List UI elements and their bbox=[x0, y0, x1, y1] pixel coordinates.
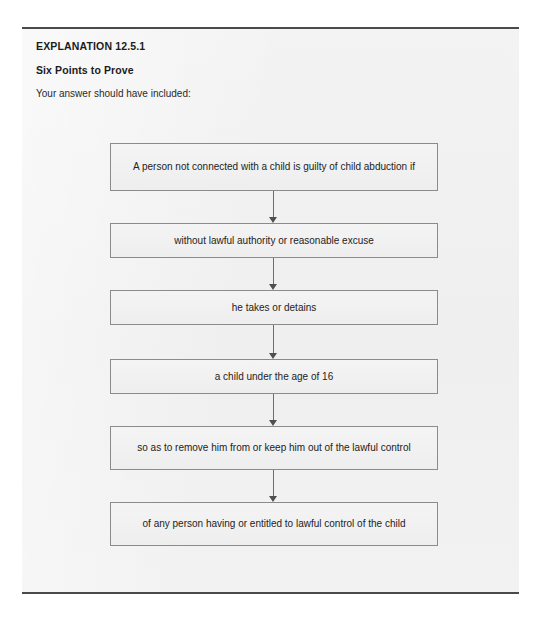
flow-node-4-label: a child under the age of 16 bbox=[215, 370, 333, 384]
flow-node-5: so as to remove him from or keep him out… bbox=[110, 426, 438, 470]
flow-connector-1-2 bbox=[110, 191, 438, 223]
explanation-subtitle: Six Points to Prove bbox=[36, 64, 476, 77]
flow-connector-4-5 bbox=[110, 394, 438, 426]
connector-line bbox=[273, 258, 274, 284]
flow-node-5-label: so as to remove him from or keep him out… bbox=[137, 441, 410, 455]
flow-node-1: A person not connected with a child is g… bbox=[110, 143, 438, 191]
flow-node-1-label: A person not connected with a child is g… bbox=[133, 160, 415, 174]
flow-connector-2-3 bbox=[110, 258, 438, 290]
flow-node-3-label: he takes or detains bbox=[232, 301, 317, 315]
flow-connector-5-6 bbox=[110, 470, 438, 502]
explanation-number-heading: EXPLANATION 12.5.1 bbox=[36, 40, 476, 53]
flow-node-4: a child under the age of 16 bbox=[110, 359, 438, 394]
heading-block: EXPLANATION 12.5.1 Six Points to Prove Y… bbox=[36, 40, 476, 100]
flow-node-2: without lawful authority or reasonable e… bbox=[110, 223, 438, 258]
flow-node-6-label: of any person having or entitled to lawf… bbox=[143, 517, 406, 531]
connector-line bbox=[273, 470, 274, 496]
flow-node-3: he takes or detains bbox=[110, 290, 438, 325]
explanation-intro-text: Your answer should have included: bbox=[36, 87, 476, 100]
page-root: EXPLANATION 12.5.1 Six Points to Prove Y… bbox=[0, 0, 547, 619]
flowchart: A person not connected with a child is g… bbox=[110, 143, 438, 546]
connector-line bbox=[273, 394, 274, 420]
flow-node-2-label: without lawful authority or reasonable e… bbox=[174, 234, 374, 248]
connector-line bbox=[273, 325, 274, 353]
explanation-panel: EXPLANATION 12.5.1 Six Points to Prove Y… bbox=[22, 27, 519, 594]
connector-line bbox=[273, 191, 274, 217]
flow-node-6: of any person having or entitled to lawf… bbox=[110, 502, 438, 546]
flow-connector-3-4 bbox=[110, 325, 438, 359]
